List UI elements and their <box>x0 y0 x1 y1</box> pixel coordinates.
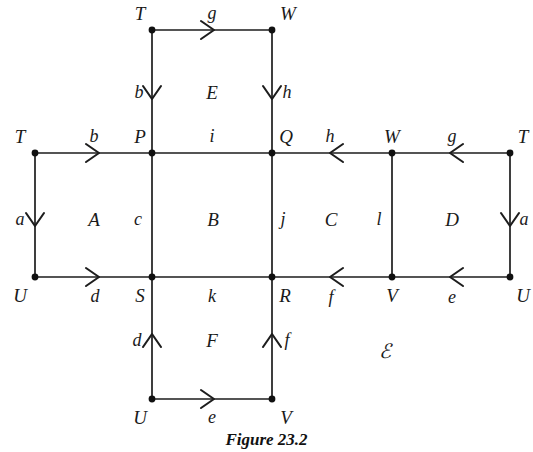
vertex-label-v_R: R <box>279 286 291 305</box>
edge-label-e_d_mid: d <box>91 287 100 305</box>
vertex-dot-U-v_U_right <box>507 274 514 281</box>
vertex-label-v_P: P <box>134 127 146 146</box>
vertex-dot-T-v_T_left <box>32 150 39 157</box>
edge-label-e_h_top: h <box>283 83 292 101</box>
vertex-dot-P-v_P <box>149 150 156 157</box>
edge-lines-group <box>35 30 510 399</box>
edge-label-e_b_mid: b <box>90 127 99 145</box>
face-label-face_D: D <box>445 210 459 229</box>
edge-label-e_f_bot: f <box>284 331 289 349</box>
vertex-dot-V-v_V_bot <box>269 396 276 403</box>
edge-label-e_g_top: g <box>208 4 217 22</box>
vertex-dot-U-v_U_left <box>32 274 39 281</box>
vertex-label-v_T_right: T <box>518 127 529 146</box>
vertex-dot-T-v_T_top <box>149 27 156 34</box>
edge-label-e_f_mid: f <box>328 288 333 306</box>
vertex-label-v_Q: Q <box>279 127 293 146</box>
face-label-face_F: F <box>206 331 218 350</box>
figure-container: TWTPQWTUSRVUUVgbhbihgacjladkfedfeEABCDFℰ… <box>0 0 533 452</box>
edge-label-e_a_left: a <box>16 210 25 228</box>
edge-label-e_a_right: a <box>520 210 529 228</box>
face-label-face_E: E <box>206 83 218 102</box>
vertex-dot-R-v_R <box>269 274 276 281</box>
vertex-dot-W-v_W_top <box>269 27 276 34</box>
vertex-label-v_U_right: U <box>516 286 530 305</box>
edge-label-e_d_bot: d <box>133 331 142 349</box>
face-label-face_C: C <box>325 210 338 229</box>
vertex-dot-U-v_U_bot <box>149 396 156 403</box>
vertex-dot-W-v_W_right <box>389 150 396 157</box>
figure-caption: Figure 23.2 <box>0 430 533 450</box>
edge-label-e_l: l <box>376 210 381 228</box>
vertex-label-v_T_left: T <box>15 127 26 146</box>
vertex-label-v_W_right: W <box>384 127 400 146</box>
vertex-label-v_W_top: W <box>280 4 296 23</box>
edge-label-e_e_mid: e <box>448 288 456 306</box>
vertex-dot-V-v_V_right <box>389 274 396 281</box>
edge-label-e_c: c <box>134 210 142 228</box>
vertex-dot-S-v_S <box>149 274 156 281</box>
annotation-ann_X: ℰ <box>379 341 392 361</box>
edge-label-e_e_bot: e <box>208 408 216 426</box>
vertex-label-v_V_bot: V <box>280 408 292 427</box>
edge-label-e_i: i <box>209 127 214 145</box>
edge-label-e_k: k <box>208 287 216 305</box>
vertex-label-v_T_top: T <box>135 4 146 23</box>
vertex-label-v_U_bot: U <box>133 408 147 427</box>
face-label-face_A: A <box>88 210 100 229</box>
vertex-dot-T-v_T_right <box>507 150 514 157</box>
edge-label-e_j: j <box>280 210 285 228</box>
face-label-face_B: B <box>207 210 219 229</box>
vertex-label-v_V_right: V <box>386 286 398 305</box>
vertex-dot-Q-v_Q <box>269 150 276 157</box>
edge-label-e_g_mid: g <box>448 127 457 145</box>
edge-label-e_b_top: b <box>135 83 144 101</box>
vertex-label-v_S: S <box>135 286 145 305</box>
edge-label-e_h_mid: h <box>326 127 335 145</box>
vertex-label-v_U_left: U <box>13 286 27 305</box>
